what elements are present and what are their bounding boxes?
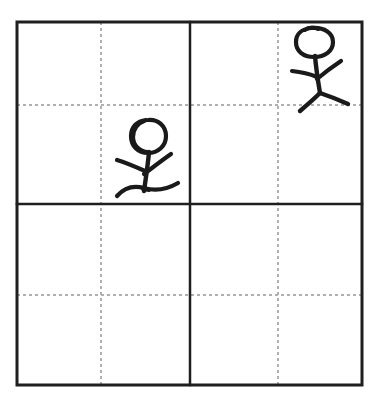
cell-bottom-right[interactable]: [191, 206, 361, 384]
cell-bottom-left[interactable]: [18, 206, 189, 384]
stick-figure-grid-drawing: [0, 0, 381, 406]
cell-top-right[interactable]: [191, 23, 361, 203]
cell-top-left[interactable]: [18, 23, 189, 203]
drawing-canvas: [0, 0, 381, 406]
